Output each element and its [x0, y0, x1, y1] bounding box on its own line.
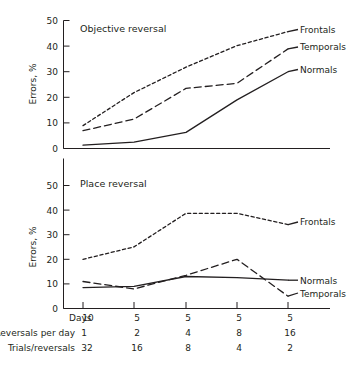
bottom-ytick-0: 0 [52, 304, 58, 314]
top-legend-temporals: Temporals [299, 42, 346, 52]
top-ytick-30: 30 [47, 67, 59, 77]
bottom-series-normals [83, 277, 288, 288]
bottom-ytick-40: 40 [47, 206, 59, 216]
xaxis-days-v2: 5 [134, 313, 140, 323]
bottom-leader-frontals [288, 222, 298, 225]
bottom-y-ticks [64, 186, 70, 309]
bottom-x-ticks [83, 302, 288, 309]
bottom-series-frontals [83, 213, 288, 259]
bottom-panel: 50 40 30 20 10 0 Errors, % Place reversa… [28, 159, 346, 315]
figure-container: 50 40 30 20 10 0 Errors, % Objective rev… [0, 0, 347, 365]
xaxis-row-label-trials-reversals: Trials/reversals [7, 343, 75, 353]
bottom-legend-frontals: Frontals [300, 217, 336, 227]
top-leader-frontals [288, 30, 298, 32]
xaxis-rev-v1: 1 [81, 328, 87, 338]
top-panel: 50 40 30 20 10 0 Errors, % Objective rev… [28, 16, 346, 154]
xaxis-trials-v1: 32 [81, 343, 92, 353]
xaxis-rev-v2: 2 [134, 328, 140, 338]
bottom-series-temporals [83, 259, 288, 296]
xaxis-trials-v4: 4 [236, 343, 242, 353]
bottom-legend-temporals: Temporals [299, 289, 346, 299]
bottom-ytick-30: 30 [47, 230, 59, 240]
xaxis-trials-v2: 16 [131, 343, 143, 353]
xaxis-rev-v5: 16 [284, 328, 296, 338]
top-legend-frontals: Frontals [300, 25, 336, 35]
bottom-ytick-50: 50 [47, 181, 59, 191]
top-series-frontals [83, 32, 288, 126]
top-leader-temporals [288, 47, 298, 49]
top-panel-title: Objective reversal [80, 23, 166, 34]
bottom-legend-normals: Normals [300, 276, 338, 286]
xaxis-days-v3: 5 [185, 313, 191, 323]
xaxis-days-v5: 5 [287, 313, 293, 323]
top-ytick-20: 20 [47, 93, 59, 103]
top-series-normals [83, 72, 288, 146]
xaxis-trials-v5: 2 [287, 343, 293, 353]
bottom-ytick-20: 20 [47, 255, 59, 265]
top-y-ticks [64, 21, 70, 149]
top-ytick-40: 40 [47, 42, 59, 52]
top-ytick-0: 0 [52, 144, 58, 154]
top-ytick-10: 10 [47, 118, 59, 128]
bottom-panel-title: Place reversal [80, 178, 147, 189]
top-leader-normals [288, 70, 298, 72]
bottom-ytick-10: 10 [47, 279, 59, 289]
top-y-axis-title: Errors, % [28, 63, 38, 104]
xaxis-days-v4: 5 [236, 313, 242, 323]
xaxis-trials-v3: 8 [185, 343, 191, 353]
xaxis-rev-v3: 4 [185, 328, 191, 338]
xaxis-table: Days 10 5 5 5 5 Reversals per day 1 2 4 … [0, 313, 296, 353]
xaxis-days-v1: 10 [82, 313, 94, 323]
top-legend-normals: Normals [300, 65, 338, 75]
dual-line-chart: 50 40 30 20 10 0 Errors, % Objective rev… [0, 0, 347, 365]
xaxis-rev-v4: 8 [236, 328, 242, 338]
top-series-temporals [83, 49, 288, 131]
bottom-y-axis-title: Errors, % [28, 226, 38, 267]
top-ytick-50: 50 [47, 16, 59, 26]
xaxis-row-label-reversals-per-day: Reversals per day [0, 328, 76, 338]
bottom-leader-temporals [288, 293, 298, 296]
